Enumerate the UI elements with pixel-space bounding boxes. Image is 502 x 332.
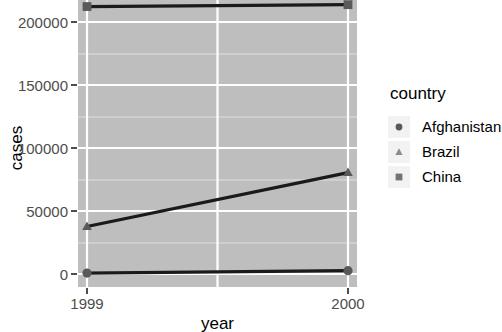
y-axis-tick-labels: 200000 150000 100000 50000 0 bbox=[0, 0, 68, 332]
y-tick-mark-150000 bbox=[71, 84, 77, 86]
series-line-afghanistan bbox=[87, 271, 348, 273]
y-tick-label-200000: 200000 bbox=[18, 15, 68, 30]
chart-plot: cases 200000 150000 100000 50000 0 bbox=[0, 0, 502, 332]
x-axis-title: year bbox=[0, 314, 435, 332]
y-tick-mark-100000 bbox=[71, 147, 77, 149]
legend-title: country bbox=[390, 84, 500, 104]
x-tick-label-1999: 1999 bbox=[70, 296, 103, 311]
square-icon bbox=[388, 166, 410, 188]
plot-panel-svg bbox=[78, 0, 357, 287]
legend-label-brazil: Brazil bbox=[422, 143, 460, 160]
legend: country Afghanistan Brazil bbox=[388, 84, 500, 189]
y-tick-label-150000: 150000 bbox=[18, 78, 68, 93]
triangle-icon bbox=[388, 141, 410, 163]
y-tick-mark-200000 bbox=[71, 21, 77, 23]
y-tick-mark-0 bbox=[71, 273, 77, 275]
legend-item-china[interactable]: China bbox=[388, 164, 500, 189]
legend-item-afghanistan[interactable]: Afghanistan bbox=[388, 114, 500, 139]
plot-panel bbox=[78, 0, 357, 287]
legend-item-brazil[interactable]: Brazil bbox=[388, 139, 500, 164]
series-line-china bbox=[87, 5, 348, 7]
x-tick-mark-2000 bbox=[347, 288, 349, 294]
y-tick-mark-50000 bbox=[71, 210, 77, 212]
y-tick-label-0: 0 bbox=[60, 267, 68, 282]
x-tick-label-2000: 2000 bbox=[331, 296, 364, 311]
legend-label-china: China bbox=[422, 168, 461, 185]
x-tick-mark-1999 bbox=[86, 288, 88, 294]
circle-icon bbox=[388, 116, 410, 138]
y-tick-label-50000: 50000 bbox=[26, 204, 68, 219]
y-tick-label-100000: 100000 bbox=[18, 141, 68, 156]
legend-label-afghanistan: Afghanistan bbox=[422, 118, 501, 135]
